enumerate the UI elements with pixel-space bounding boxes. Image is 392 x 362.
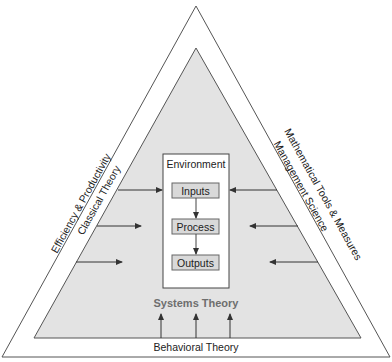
environment-title: Environment: [167, 158, 226, 170]
systems-theory-label: Systems Theory: [154, 297, 240, 309]
management-theory-triangle: Environment Inputs Process Outputs Syste…: [0, 0, 392, 362]
process-label: Process: [177, 221, 215, 233]
behavioral-theory-label: Behavioral Theory: [153, 341, 239, 353]
inputs-label: Inputs: [181, 185, 210, 197]
outputs-label: Outputs: [177, 257, 214, 269]
